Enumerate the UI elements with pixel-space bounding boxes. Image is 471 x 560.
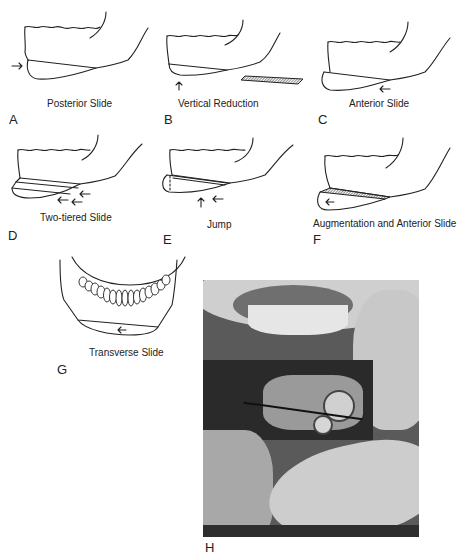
mandible-drawing-two-tiered-slide [0, 140, 160, 240]
mandible-drawing-posterior-slide [0, 0, 160, 100]
panel-h-letter: H [205, 540, 214, 555]
panel-e-caption: Jump [207, 219, 231, 230]
panel-a-letter: A [9, 112, 18, 127]
panel-b-letter: B [164, 112, 173, 127]
mandible-front-drawing-transverse-slide [50, 255, 210, 355]
panel-a-caption: Posterior Slide [47, 98, 112, 109]
intraoral-surgical-photo [203, 280, 419, 537]
arrow-icon [380, 86, 390, 92]
fixation-screw [313, 415, 333, 435]
arrow-icon [326, 199, 334, 205]
panel-d-letter: D [8, 228, 17, 243]
teeth-upper [248, 305, 348, 335]
left-retractor-tissue [203, 430, 273, 537]
arrow-up-icon [198, 198, 204, 207]
panel-f-caption: Augmentation and Anterior Slide [313, 218, 456, 229]
panel-f-letter: F [313, 232, 321, 247]
mandible-drawing-jump [155, 140, 315, 240]
arrow-icon [213, 196, 223, 202]
arrow-icon [80, 191, 90, 197]
arrow-icon [72, 199, 82, 205]
bone-graft-block [241, 76, 303, 84]
panel-g-letter: G [57, 362, 67, 377]
mandible-drawing-vertical-reduction [155, 0, 315, 100]
arrow-icon [118, 327, 126, 333]
panel-c-letter: C [318, 112, 327, 127]
mandible-drawing-anterior-slide [310, 0, 471, 100]
panel-b-caption: Vertical Reduction [178, 98, 259, 109]
arrow-icon [58, 197, 68, 203]
panel-e-letter: E [163, 232, 172, 247]
panel-d-caption: Two-tiered Slide [40, 212, 112, 223]
arrow-up-icon [176, 82, 182, 90]
arrow-icon [12, 63, 22, 69]
panel-c-caption: Anterior Slide [349, 98, 409, 109]
panel-g-caption: Transverse Slide [89, 347, 164, 358]
teeth [79, 275, 170, 306]
